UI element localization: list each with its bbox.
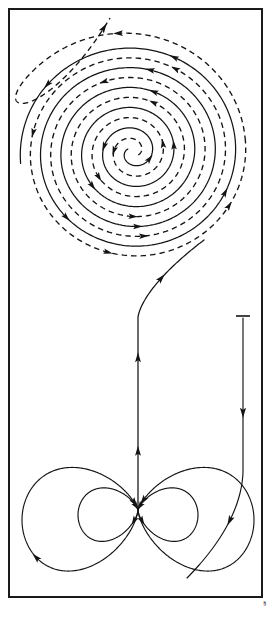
double-spiral-group	[16, 18, 246, 256]
trunk-arrowheads	[135, 272, 167, 455]
lobe-arrowheads	[30, 495, 148, 563]
spiral-direction-arrow-icon	[221, 187, 230, 198]
spiral-direction-arrow-icon	[224, 200, 234, 211]
figure-container: §	[0, 0, 274, 620]
descent-direction-arrow-icon	[225, 515, 235, 527]
outflow-direction-arrow-icon	[99, 22, 109, 34]
spiral-direction-arrow-icon	[100, 141, 108, 152]
outer-right-lobe	[138, 467, 254, 571]
outer-left-lobe	[22, 467, 138, 571]
spiral-direction-arrow-icon	[145, 66, 155, 74]
solid-trunk-line	[138, 240, 204, 510]
spiral-direction-arrow-icon	[29, 128, 37, 138]
spiral-direction-arrow-icon	[139, 233, 149, 239]
spiral-direction-arrow-icon	[169, 53, 180, 62]
spiral-direction-arrow-icon	[103, 248, 113, 256]
trunk-group	[135, 240, 204, 510]
spiral-direction-arrow-icon	[98, 78, 109, 86]
spiral-direction-arrow-icon	[148, 87, 159, 96]
corner-glyph: §	[263, 600, 267, 607]
spiral-direction-arrow-icon	[148, 98, 159, 107]
spiral-direction-arrow-icon	[160, 138, 167, 148]
right-descending-field-line	[187, 318, 243, 578]
field-line-diagram	[0, 0, 274, 620]
spiral-direction-arrow-icon	[170, 64, 181, 73]
right-descending-field-line-group	[187, 316, 250, 578]
